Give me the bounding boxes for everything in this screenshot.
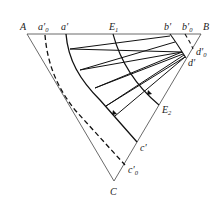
label-c0: c′0 — [128, 164, 139, 176]
triangle-outline — [27, 34, 201, 181]
label-E1: E1 — [108, 21, 118, 33]
arrow-icon — [147, 90, 152, 95]
label-a0: a′0 — [38, 21, 49, 33]
vertex-label-C: C — [110, 186, 117, 197]
dashed-curve-b0-d0 — [185, 34, 193, 49]
arrow-icon — [112, 110, 117, 115]
tie-line — [70, 49, 182, 52]
label-d0: d′0 — [196, 46, 207, 58]
curve-b1-d1 — [170, 34, 186, 58]
dashed-curve-a0-c0 — [45, 35, 125, 165]
label-b1: b′ — [164, 21, 172, 32]
curve-E1-E2 — [113, 34, 159, 105]
label-E2: E2 — [161, 104, 172, 116]
tie-line — [70, 36, 170, 49]
label-c1: c′ — [140, 142, 147, 153]
vertex-label-B: B — [203, 21, 209, 32]
label-d1: d′ — [188, 57, 196, 68]
ternary-diagram: A B C a′0 a′ E1 b′ b′0 d′0 d′ E2 c′ c′0 — [0, 0, 221, 200]
vertex-label-A: A — [19, 21, 27, 32]
label-b0: b′0 — [182, 21, 193, 33]
label-a1: a′ — [61, 21, 69, 32]
